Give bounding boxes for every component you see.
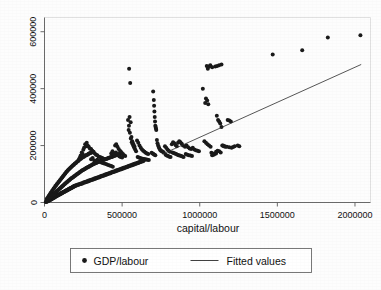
figure-background (0, 0, 381, 290)
scatter-point (152, 104, 156, 108)
x-tick-label: 500000 (107, 210, 137, 220)
scatter-point (146, 152, 150, 156)
scatter-point (201, 87, 205, 91)
x-tick-label: 0 (42, 210, 47, 220)
scatter-point (326, 35, 330, 39)
scatter-point (219, 62, 223, 66)
scatter-point (206, 102, 210, 106)
scatter-point (153, 115, 157, 119)
x-axis-title: capital/labour (177, 222, 240, 234)
scatter-point (127, 67, 131, 71)
x-tick-label: 1000000 (182, 210, 217, 220)
scatter-point (152, 98, 156, 102)
scatter-point (358, 33, 362, 37)
y-tick-label: 400000 (29, 74, 39, 104)
scatter-point (219, 150, 223, 154)
scatter-point (111, 165, 115, 169)
scatter-point (190, 154, 194, 158)
scatter-point (153, 153, 157, 157)
scatter-point (300, 48, 304, 52)
scatter-point (155, 138, 159, 142)
scatter-point (154, 128, 158, 132)
scatter-point (237, 144, 241, 148)
scatter-point (123, 154, 127, 158)
scatter-point (215, 114, 219, 118)
scatter-point (152, 109, 156, 113)
legend-label-fitted-values: Fitted values (227, 255, 287, 267)
scatter-point (210, 153, 214, 157)
scatter-point (103, 157, 107, 161)
scatter-point (77, 157, 81, 161)
legend-marker-dot-icon (82, 258, 87, 263)
scatter-point (209, 145, 213, 149)
scatter-point (128, 81, 132, 85)
scatter-point (153, 119, 157, 123)
scatter-point (128, 131, 132, 135)
chart-legend: GDP/labourFitted values (71, 249, 312, 273)
y-tick-label: 600000 (29, 17, 39, 47)
scatter-point (205, 99, 209, 103)
chart-canvas: 0500000100000015000002000000 02000004000… (0, 0, 381, 290)
x-tick-label: 2000000 (337, 210, 372, 220)
scatter-point (129, 136, 133, 140)
y-tick-label: 200000 (29, 131, 39, 161)
y-tick-label: 0 (29, 200, 39, 205)
legend-label-gdp-labour: GDP/labour (94, 255, 149, 267)
scatter-point (169, 155, 173, 159)
scatter-plot-figure: 0500000100000015000002000000 02000004000… (0, 0, 381, 290)
scatter-point (147, 158, 151, 162)
scatter-point (218, 121, 222, 125)
scatter-point (197, 149, 201, 153)
scatter-point (271, 53, 275, 57)
scatter-point (134, 149, 138, 153)
x-tick-label: 1500000 (260, 210, 295, 220)
scatter-point (127, 124, 131, 128)
scatter-point (151, 90, 155, 94)
scatter-point (126, 118, 130, 122)
